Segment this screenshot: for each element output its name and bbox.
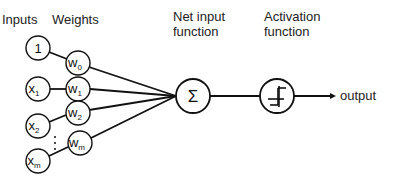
perceptron-diagram: Inputs Weights Net input function Activa… [0,0,399,182]
arrow-head-icon [330,93,336,99]
input-label-bias: 1 [34,41,41,56]
ellipsis-dots-icon [54,136,56,150]
output-label: output [340,88,376,103]
sigma-icon: Σ [188,87,199,106]
activation-node [260,79,294,113]
